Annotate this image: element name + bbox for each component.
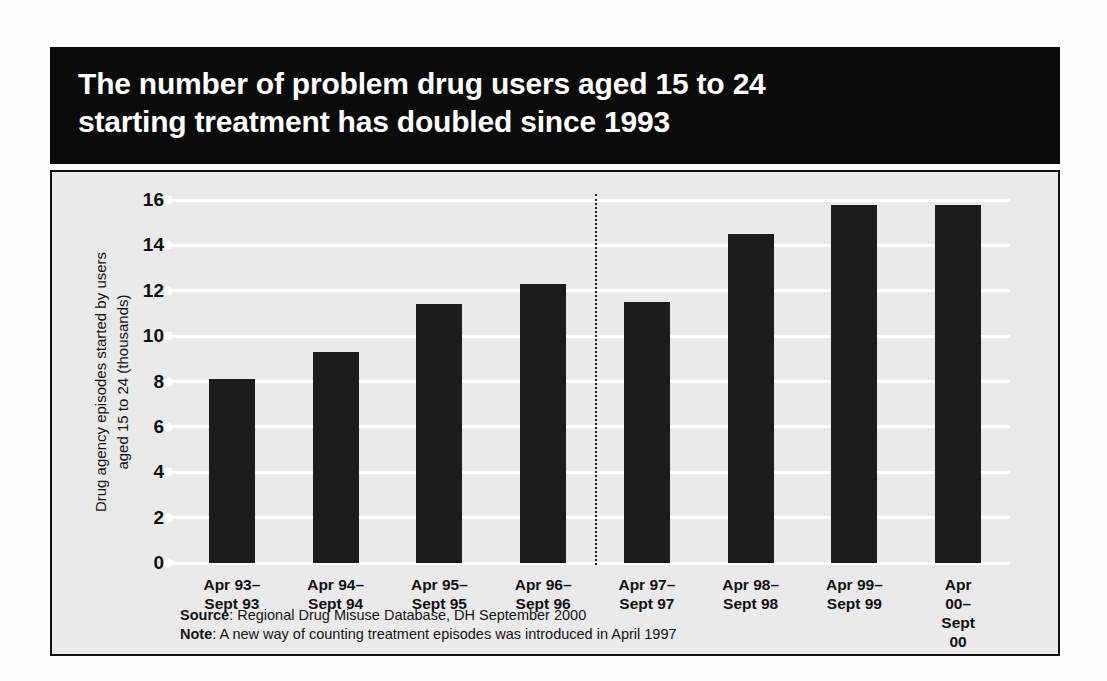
y-axis-tick-marker: [164, 332, 173, 341]
chart-panel: Drug agency episodes started by users ag…: [50, 170, 1060, 656]
source-line: Source: Regional Drug Misuse Database, D…: [180, 606, 677, 625]
y-axis-title-text: Drug agency episodes started by users ag…: [90, 202, 134, 562]
y-axis-tick-label: 8: [153, 371, 164, 393]
gridline: [166, 289, 1010, 292]
y-axis-tick-label: 14: [143, 234, 164, 256]
plot-area: 0246810121416 Apr 93– Sept 93Apr 94– Sep…: [180, 200, 1010, 563]
bar: [831, 205, 877, 563]
y-axis-tick-label: 2: [153, 507, 164, 529]
gridline: [166, 516, 1010, 519]
y-axis-tick-label: 4: [153, 461, 164, 483]
gridline: [166, 380, 1010, 383]
gridline: [166, 471, 1010, 474]
counting-method-change-divider: [595, 194, 597, 565]
y-axis-tick-label: 16: [143, 189, 164, 211]
title-banner: The number of problem drug users aged 15…: [50, 47, 1060, 164]
y-axis-tick-marker: [164, 377, 173, 386]
bar: [416, 304, 462, 563]
y-axis-tick-label: 12: [143, 280, 164, 302]
gridline: [166, 425, 1010, 428]
bar: [209, 379, 255, 563]
bar: [624, 302, 670, 563]
source-text: : Regional Drug Misuse Database, DH Sept…: [229, 607, 586, 623]
bar: [728, 234, 774, 563]
bar: [935, 205, 981, 563]
y-axis-tick-marker: [164, 559, 173, 568]
y-axis-tick-marker: [164, 422, 173, 431]
source-label: Source: [180, 607, 229, 623]
y-axis-tick-label: 10: [143, 325, 164, 347]
note-text: : A new way of counting treatment episod…: [212, 626, 676, 642]
y-axis-tick-marker: [164, 286, 173, 295]
page-title: The number of problem drug users aged 15…: [78, 65, 1060, 141]
y-axis-title: Drug agency episodes started by users ag…: [90, 202, 134, 562]
gridline: [166, 244, 1010, 247]
bar: [520, 284, 566, 563]
note-label: Note: [180, 626, 212, 642]
y-axis-tick-marker: [164, 196, 173, 205]
y-axis-tick-label: 6: [153, 416, 164, 438]
footnotes: Source: Regional Drug Misuse Database, D…: [180, 606, 677, 644]
x-axis-tick-label: Apr 99– Sept 99: [826, 575, 883, 613]
y-axis-tick-marker: [164, 468, 173, 477]
y-axis-tick-marker: [164, 241, 173, 250]
gridline: [166, 562, 1010, 565]
x-axis-tick-label: Apr 98– Sept 98: [722, 575, 779, 613]
figure: The number of problem drug users aged 15…: [0, 0, 1107, 681]
bar: [313, 352, 359, 563]
gridline: [166, 199, 1010, 202]
y-axis-tick-marker: [164, 513, 173, 522]
gridline: [166, 335, 1010, 338]
x-axis-tick-label: Apr 00– Sept 00: [932, 575, 984, 651]
y-axis-tick-label: 0: [153, 552, 164, 574]
note-line: Note: A new way of counting treatment ep…: [180, 625, 677, 644]
